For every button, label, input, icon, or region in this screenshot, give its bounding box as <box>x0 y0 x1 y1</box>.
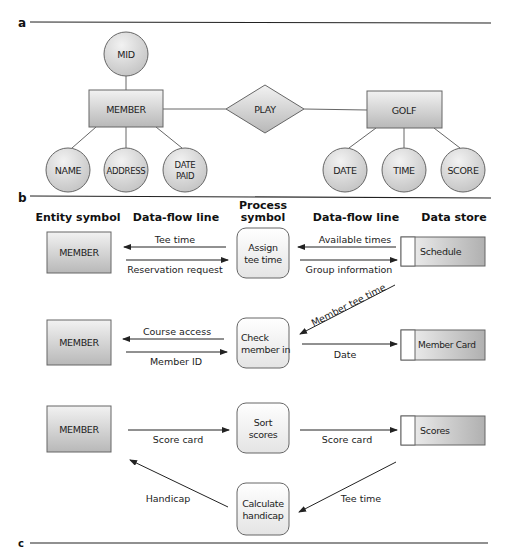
svg-text:MEMBER: MEMBER <box>59 247 99 258</box>
entity-golf[interactable]: GOLF <box>367 91 442 128</box>
svg-text:Score card: Score card <box>153 434 203 445</box>
svg-text:Scores: Scores <box>420 425 450 436</box>
header-data-flow-left: Data-flow line <box>133 211 219 224</box>
section-divider-a <box>30 22 491 23</box>
svg-text:PAID: PAID <box>176 171 195 181</box>
header-data-store: Data store <box>421 211 486 224</box>
svg-text:Reservation request: Reservation request <box>127 264 223 275</box>
flow-handicap[interactable]: Handicap <box>130 460 228 507</box>
flow-reservation-request[interactable]: Reservation request <box>126 260 228 275</box>
entity-member[interactable]: MEMBER <box>89 90 163 127</box>
svg-text:NAME: NAME <box>55 165 82 176</box>
diagram-canvas: a MID MEMBER PLAY <box>0 0 509 556</box>
section-label-a: a <box>18 16 26 30</box>
flow-score-card-left[interactable]: Score card <box>128 430 229 445</box>
flow-course-access[interactable]: Course access <box>123 326 224 339</box>
svg-text:Date: Date <box>334 349 357 360</box>
svg-text:handicap: handicap <box>242 510 283 521</box>
process-calculate-handicap[interactable]: Calculate handicap <box>237 483 289 535</box>
svg-text:DATE: DATE <box>333 165 357 176</box>
dfd-row-3: MEMBER Score card Sort scores Score card… <box>47 403 485 453</box>
section-c: c <box>18 538 488 549</box>
attribute-address[interactable]: ADDRESS <box>104 148 148 192</box>
attribute-name[interactable]: NAME <box>46 148 90 192</box>
svg-text:Member tee time: Member tee time <box>309 281 387 328</box>
attribute-date[interactable]: DATE <box>323 148 367 192</box>
section-b: b Entity symbol Data-flow line Process s… <box>18 191 491 535</box>
svg-text:TIME: TIME <box>392 165 415 176</box>
relationship-play[interactable]: PLAY <box>226 85 304 133</box>
section-divider-b <box>30 196 491 198</box>
entity-member-3[interactable]: MEMBER <box>47 406 111 452</box>
dfd-row-1: MEMBER Tee time Reservation request Assi… <box>47 228 485 278</box>
section-a: a MID MEMBER PLAY <box>18 16 491 192</box>
svg-text:DATE: DATE <box>175 160 196 170</box>
svg-text:member in: member in <box>241 344 290 355</box>
svg-text:Member ID: Member ID <box>150 356 202 367</box>
header-entity-symbol: Entity symbol <box>35 211 120 224</box>
svg-text:GOLF: GOLF <box>392 105 416 116</box>
svg-text:scores: scores <box>249 429 278 440</box>
process-check-member-in[interactable]: Check member in <box>237 318 290 368</box>
flow-score-card-right[interactable]: Score card <box>300 430 397 445</box>
header-process-line2: symbol <box>241 211 285 224</box>
flow-group-information[interactable]: Group information <box>300 260 397 275</box>
svg-text:Assign: Assign <box>248 242 278 253</box>
svg-text:Handicap: Handicap <box>146 493 191 504</box>
attribute-score[interactable]: SCORE <box>441 148 485 192</box>
svg-text:Tee time: Tee time <box>154 234 196 245</box>
svg-text:Sort: Sort <box>254 417 273 428</box>
flow-member-tee-time[interactable]: Member tee time <box>300 281 395 334</box>
svg-text:Course access: Course access <box>143 326 211 337</box>
svg-text:Check: Check <box>241 332 270 343</box>
dfd-calculate: Handicap Calculate handicap Tee time <box>130 460 396 535</box>
process-assign-tee-time[interactable]: Assign tee time <box>237 228 289 278</box>
header-data-flow-right: Data-flow line <box>313 211 399 224</box>
svg-text:Calculate: Calculate <box>242 498 284 509</box>
entity-member-1[interactable]: MEMBER <box>47 232 111 273</box>
datastore-member-card[interactable]: Member Card <box>401 330 485 360</box>
flow-tee-time-calc[interactable]: Tee time <box>299 462 396 512</box>
svg-text:Group information: Group information <box>306 264 393 275</box>
flow-tee-time-left[interactable]: Tee time <box>124 234 226 247</box>
dfd-row-2: MEMBER Course access Member ID Check mem… <box>47 318 485 368</box>
attribute-time[interactable]: TIME <box>382 148 426 192</box>
svg-text:Score card: Score card <box>322 434 372 445</box>
svg-text:Available times: Available times <box>319 234 391 245</box>
svg-text:Member Card: Member Card <box>418 340 476 350</box>
process-sort-scores[interactable]: Sort scores <box>237 403 289 453</box>
svg-text:MEMBER: MEMBER <box>59 424 99 435</box>
attribute-mid[interactable]: MID <box>104 32 148 76</box>
flow-available-times[interactable]: Available times <box>298 234 396 247</box>
datastore-scores[interactable]: Scores <box>401 416 485 445</box>
svg-text:ADDRESS: ADDRESS <box>107 166 146 176</box>
svg-text:MEMBER: MEMBER <box>59 337 99 348</box>
flow-member-id[interactable]: Member ID <box>126 352 227 367</box>
attribute-date-paid[interactable]: DATE PAID <box>163 148 207 192</box>
svg-text:SCORE: SCORE <box>447 165 479 176</box>
flow-date[interactable]: Date <box>302 344 397 360</box>
section-label-b: b <box>18 191 27 205</box>
svg-text:Tee time: Tee time <box>340 493 382 504</box>
svg-text:PLAY: PLAY <box>254 104 276 115</box>
datastore-schedule[interactable]: Schedule <box>401 237 485 266</box>
entity-member-2[interactable]: MEMBER <box>47 320 111 365</box>
section-label-c: c <box>18 538 24 549</box>
svg-text:MEMBER: MEMBER <box>106 104 146 115</box>
svg-text:MID: MID <box>117 49 134 60</box>
svg-text:Schedule: Schedule <box>420 246 462 257</box>
svg-text:tee time: tee time <box>244 254 282 265</box>
